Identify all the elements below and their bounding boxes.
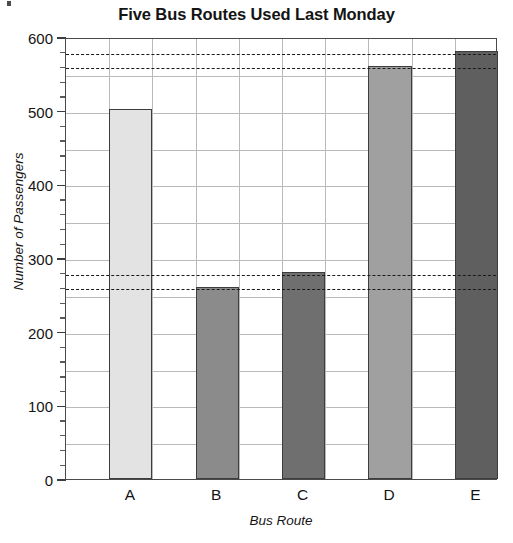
reference-line-260	[66, 289, 496, 290]
x-tick-label-d: D	[359, 486, 419, 504]
y-tick-label: 500	[7, 103, 53, 120]
x-tick-label-b: B	[186, 486, 246, 504]
reference-line-280	[66, 275, 496, 276]
y-tick-label: 400	[7, 177, 53, 194]
y-tick-label: 200	[7, 324, 53, 341]
x-axis-title: Bus Route	[65, 513, 497, 528]
x-tick-label-e: E	[445, 486, 505, 504]
y-tick-label: 300	[7, 251, 53, 268]
reference-lines-layer	[66, 39, 496, 479]
y-axis-labels: 0100200300400500600	[3, 38, 53, 480]
y-tick-label: 0	[7, 472, 53, 489]
y-tick-label: 600	[7, 30, 53, 47]
y-tick-label: 100	[7, 398, 53, 415]
reference-line-560	[66, 68, 496, 69]
x-tick-label-a: A	[100, 486, 160, 504]
x-axis-labels: ABCDE	[65, 486, 497, 508]
plot-area	[65, 38, 497, 480]
chart-title: Five Bus Routes Used Last Monday	[0, 5, 513, 24]
x-tick-label-c: C	[273, 486, 333, 504]
bar-chart: Five Bus Routes Used Last Monday Number …	[0, 0, 513, 543]
reference-line-580	[66, 54, 496, 55]
